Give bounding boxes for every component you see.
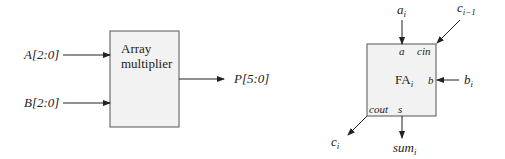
full-adder-diagram: FAi a cin b cout s ai ci−1 bi ci sumi [331, 0, 476, 157]
ci-minus-1-arrow [437, 20, 460, 43]
port-cout-label: cout [369, 103, 389, 115]
block-label-line2: multiplier [121, 56, 173, 71]
signal-ci-label: ci [331, 134, 340, 151]
signal-bi-label: bi [464, 72, 474, 89]
array-multiplier-diagram: Array multiplier A[2:0] B[2:0] P[5:0] [23, 31, 269, 127]
signal-ai-label: ai [397, 2, 407, 19]
port-s-label: s [398, 103, 402, 115]
signal-sumi-label: sumi [393, 140, 417, 157]
output-p-label: P[5:0] [233, 71, 269, 86]
port-cin-label: cin [417, 45, 431, 57]
diagram-canvas: Array multiplier A[2:0] B[2:0] P[5:0] FA… [0, 0, 505, 159]
port-a-label: a [399, 45, 405, 57]
block-label-line1: Array [121, 41, 152, 56]
ci-arrow [348, 116, 367, 135]
input-b-label: B[2:0] [24, 95, 59, 110]
signal-ci-minus-1-label: ci−1 [457, 0, 476, 17]
input-a-label: A[2:0] [23, 47, 59, 62]
port-b-label: b [428, 74, 434, 86]
